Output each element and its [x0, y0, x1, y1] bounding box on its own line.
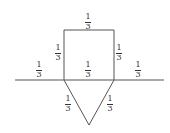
- label-line-middle: 13: [85, 61, 91, 79]
- diagram: 13 13 13 13 13 13 13 13: [0, 0, 170, 133]
- label-line-right: 13: [135, 61, 141, 79]
- label-square-right: 13: [116, 44, 122, 62]
- label-top: 13: [85, 13, 91, 31]
- label-line-left: 13: [36, 61, 42, 79]
- label-square-left: 13: [55, 44, 61, 62]
- label-triangle-right: 13: [107, 95, 113, 113]
- label-triangle-left: 13: [65, 95, 71, 113]
